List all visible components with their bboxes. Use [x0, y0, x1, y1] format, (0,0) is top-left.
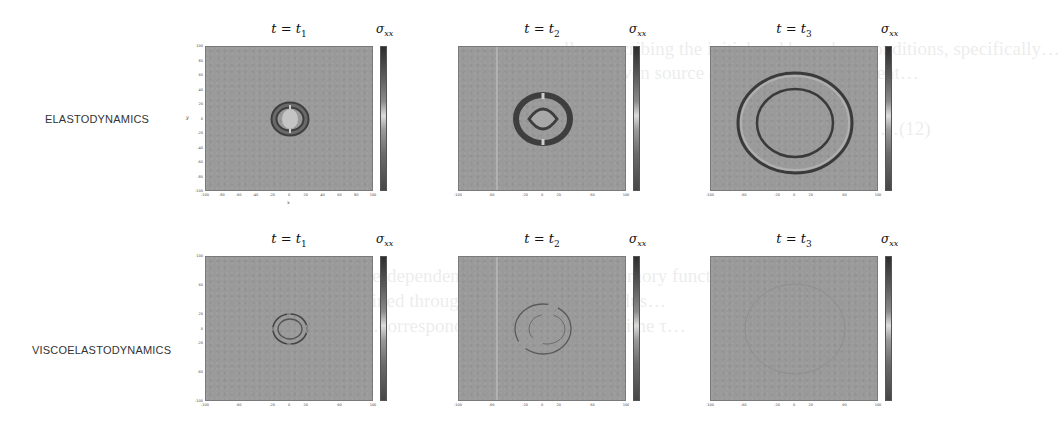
plot-title: t = t3	[710, 21, 878, 39]
plot-title: t = t2	[458, 21, 626, 39]
plot-elasto-t3: t = t3 σxx -100 -60 -20 0 20 60 100	[710, 46, 895, 196]
wavefront-rings	[711, 257, 878, 401]
wavefront-rings	[459, 47, 626, 191]
plot-visco-t2: t = t2 σxx -100 -60 -20 0 20 60 100	[458, 256, 643, 406]
colorbar	[380, 256, 387, 401]
x-axis-ticks: -100 -60 -20 0 20 60 100	[458, 403, 626, 409]
wavefront-rings	[711, 47, 878, 191]
colorbar	[633, 256, 640, 401]
x-axis-ticks: -100 -60 -20 0 20 60 100	[458, 193, 626, 199]
row-label-elastodynamics: ELASTODYNAMICS	[45, 113, 149, 125]
y-axis-ticks: 100 80 60 40 20 0 -20 -40 -60 -80 -100	[195, 46, 203, 191]
plot-elasto-t2: t = t2 σxx -100 -60 -20 0 20 60 100	[458, 46, 643, 196]
plot-title: t = t3	[710, 231, 878, 249]
colorbar-label: σxx	[881, 232, 898, 248]
y-axis-label: y	[186, 114, 189, 120]
y-axis-ticks: 100 60 20 0 -20 -60 -100	[195, 256, 203, 401]
row-label-viscoelastodynamics: VISCOELASTODYNAMICS	[32, 344, 171, 356]
plot-title: t = t2	[458, 231, 626, 249]
colorbar-label: σxx	[629, 22, 646, 38]
colorbar-label: σxx	[376, 22, 393, 38]
wavefront-rings	[459, 257, 626, 401]
stress-field-heatmap	[710, 46, 878, 191]
colorbar-label: σxx	[881, 22, 898, 38]
stress-field-heatmap	[205, 46, 373, 191]
plot-elasto-t1: t = t1 σxx 100 80 60 40 20 0 -20 -40 -60…	[205, 46, 390, 196]
x-axis-ticks: -100 -60 -20 0 20 60 100	[710, 403, 878, 409]
wavefront-rings	[206, 47, 373, 191]
colorbar	[885, 46, 892, 191]
stress-field-heatmap	[205, 256, 373, 401]
stress-field-heatmap	[458, 46, 626, 191]
stress-field-heatmap	[710, 256, 878, 401]
x-axis-label: x	[287, 199, 290, 205]
plot-title: t = t1	[205, 21, 373, 39]
wavefront-rings	[206, 257, 373, 401]
colorbar	[633, 46, 640, 191]
x-axis-ticks: -100 -60 -20 0 20 60 100	[710, 193, 878, 199]
colorbar	[380, 46, 387, 191]
x-axis-ticks: -100 -60 -20 0 20 60 100	[205, 403, 373, 409]
plot-visco-t3: t = t3 σxx -100 -60 -20 0 20 60 100	[710, 256, 895, 406]
colorbar-label: σxx	[629, 232, 646, 248]
plot-visco-t1: t = t1 σxx 100 60 20 0 -20 -60 -100 -100…	[205, 256, 390, 406]
colorbar	[885, 256, 892, 401]
colorbar-label: σxx	[376, 232, 393, 248]
plot-title: t = t1	[205, 231, 373, 249]
stress-field-heatmap	[458, 256, 626, 401]
